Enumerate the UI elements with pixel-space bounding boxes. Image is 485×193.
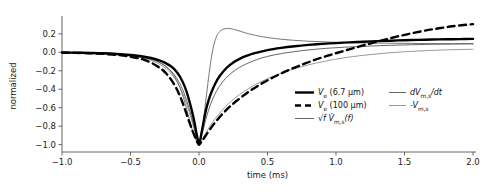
series-line-Ve_100um	[62, 24, 473, 144]
y-tick-label: −0.4	[35, 84, 56, 94]
line-chart: 0.20.0−0.2−0.4−0.6−0.8−1.0−1.0−0.50.00.5…	[0, 0, 485, 193]
y-tick-label: 0.0	[42, 47, 56, 57]
legend-label-dvms-dt: dVm,s/dt	[410, 88, 443, 99]
chart-legend: Ve (6.7 µm)Ve (100 µm)√f V̇m,s(f)dVm,s/d…	[295, 88, 443, 125]
x-tick-label: −1.0	[52, 157, 73, 167]
x-tick-label: 0.0	[192, 157, 206, 167]
chart-curves	[62, 24, 473, 145]
series-line-dVms_dt	[62, 28, 473, 144]
x-tick-label: 2.0	[466, 157, 480, 167]
legend-label-minus-vms: -Vm,s	[410, 101, 429, 112]
axis-spines	[62, 16, 476, 152]
x-axis-title: time (ms)	[247, 170, 288, 180]
legend-label-ve-100: Ve (100 µm)	[318, 101, 367, 112]
x-tick-label: 0.5	[261, 157, 275, 167]
y-tick-label: −0.2	[35, 66, 56, 76]
y-tick-label: −0.8	[35, 121, 56, 131]
y-tick-label: 0.2	[42, 29, 56, 39]
legend-label-sqrt-f-vms: √f V̇m,s(f)	[318, 113, 354, 125]
y-axis-title: normalized	[8, 62, 18, 109]
chart-figure: 0.20.0−0.2−0.4−0.6−0.8−1.0−1.0−0.50.00.5…	[0, 0, 485, 193]
x-tick-label: 1.5	[398, 157, 412, 167]
legend-label-ve-6p7: Ve (6.7 µm)	[318, 88, 364, 99]
x-tick-label: −0.5	[120, 157, 141, 167]
x-tick-label: 1.0	[329, 157, 343, 167]
y-tick-label: −0.6	[35, 103, 56, 113]
y-tick-label: −1.0	[35, 140, 56, 150]
